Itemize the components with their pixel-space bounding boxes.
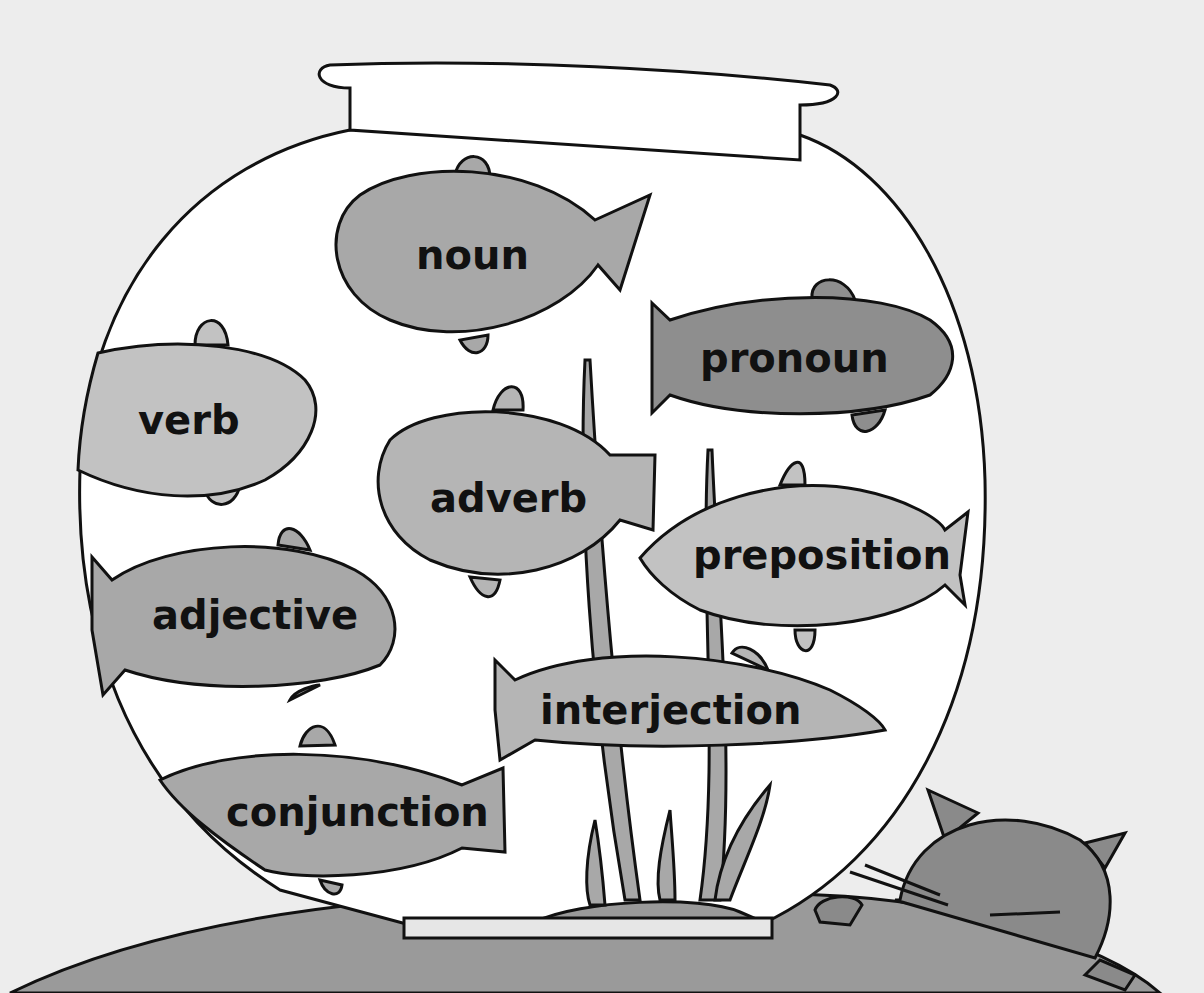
fish-label-interjection: interjection	[540, 690, 802, 730]
fish-label-verb: verb	[138, 400, 240, 440]
fish-label-pronoun: pronoun	[700, 338, 889, 378]
fish-label-adjective: adjective	[152, 595, 358, 635]
fish-label-preposition: preposition	[693, 535, 951, 575]
fish-label-conjunction: conjunction	[226, 792, 489, 832]
bowl-base	[404, 918, 772, 938]
fish-label-noun: noun	[416, 235, 529, 275]
fish-label-adverb: adverb	[430, 478, 587, 518]
fishbowl-illustration	[0, 0, 1204, 993]
